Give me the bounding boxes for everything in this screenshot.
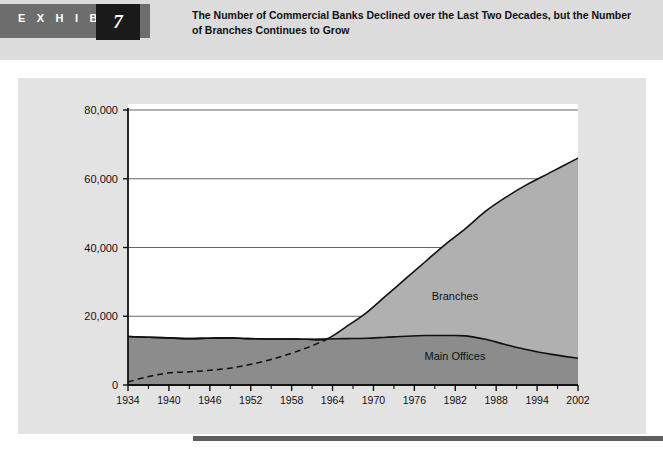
y-axis-tick-label: 0 <box>112 379 118 391</box>
y-axis-tick-label: 40,000 <box>84 242 118 254</box>
exhibit-page: E X H I B I T 7 The Number of Commercial… <box>0 0 663 450</box>
x-axis-tick-label: 1964 <box>321 394 345 406</box>
x-axis-tick-labels: 1934194019461952195819641970197619821988… <box>116 394 590 406</box>
x-axis-tick-label: 1976 <box>403 394 427 406</box>
x-axis-tick-label: 1934 <box>116 394 140 406</box>
branches-annotation: Branches <box>432 290 479 302</box>
y-axis-tick-labels: 020,00040,00060,00080,000 <box>84 104 118 391</box>
branches-fill <box>128 158 578 358</box>
area-chart: 020,00040,00060,00080,000 19341940194619… <box>0 0 663 450</box>
x-axis-tick-label: 1952 <box>239 394 263 406</box>
x-axis-tick-label: 1970 <box>362 394 386 406</box>
branches-area <box>128 158 578 358</box>
y-axis-tick-label: 80,000 <box>84 104 118 116</box>
y-axis-tick-label: 60,000 <box>84 173 118 185</box>
x-axis-tick-label: 1988 <box>485 394 509 406</box>
main-offices-annotation: Main Offices <box>425 350 486 362</box>
footer-rule <box>193 436 663 441</box>
x-axis-tick-label: 1940 <box>157 394 181 406</box>
x-axis-tick-label: 1958 <box>280 394 304 406</box>
x-axis-tick-label: 1982 <box>444 394 468 406</box>
x-axis-tick-label: 1946 <box>198 394 222 406</box>
x-axis-tick-label: 2002 <box>566 394 590 406</box>
y-axis-tick-label: 20,000 <box>84 310 118 322</box>
x-axis-tick-label: 1994 <box>525 394 549 406</box>
